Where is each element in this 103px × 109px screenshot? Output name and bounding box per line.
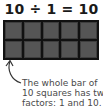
equation-title: 10 ÷ 1 = 10 xyxy=(0,1,103,17)
square xyxy=(61,22,78,39)
square xyxy=(5,41,22,58)
square xyxy=(43,41,60,58)
caption-line: The whole bar of xyxy=(22,78,103,88)
square xyxy=(5,22,22,39)
square xyxy=(43,22,60,39)
square xyxy=(80,22,97,39)
square-bar xyxy=(3,20,99,60)
square xyxy=(24,22,41,39)
square xyxy=(80,41,97,58)
caption-line: factors: 1 and 10. xyxy=(22,98,103,108)
square xyxy=(61,41,78,58)
square xyxy=(24,41,41,58)
caption-line: 10 squares has two xyxy=(22,88,103,98)
caption: The whole bar of 10 squares has two fact… xyxy=(22,78,103,108)
